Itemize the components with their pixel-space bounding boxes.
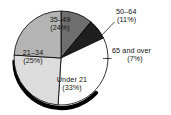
pie-label-50-64: 50–64 (11%) (116, 8, 164, 24)
pie-label-21-34: 21–34 (25%) (9, 49, 57, 65)
leader-line-50-64 (101, 22, 115, 37)
pie-label-65-and-over: 65 and over (7%) (112, 47, 170, 63)
pie-label-65-and-over-percent: (7%) (112, 55, 170, 63)
pie-label-21-34-percent: (25%) (9, 57, 57, 65)
pie-label-50-64-percent: (11%) (116, 16, 164, 24)
pie-label-35-49-percent: (24%) (36, 24, 84, 32)
pie-chart-figure: Under 21 (33%) 21–34 (25%) 35–49 (24%) 5… (0, 0, 171, 115)
pie-label-under-21-percent: (33%) (44, 84, 100, 92)
pie-label-under-21: Under 21 (33%) (44, 76, 100, 92)
pie-label-35-49: 35–49 (24%) (36, 16, 84, 32)
